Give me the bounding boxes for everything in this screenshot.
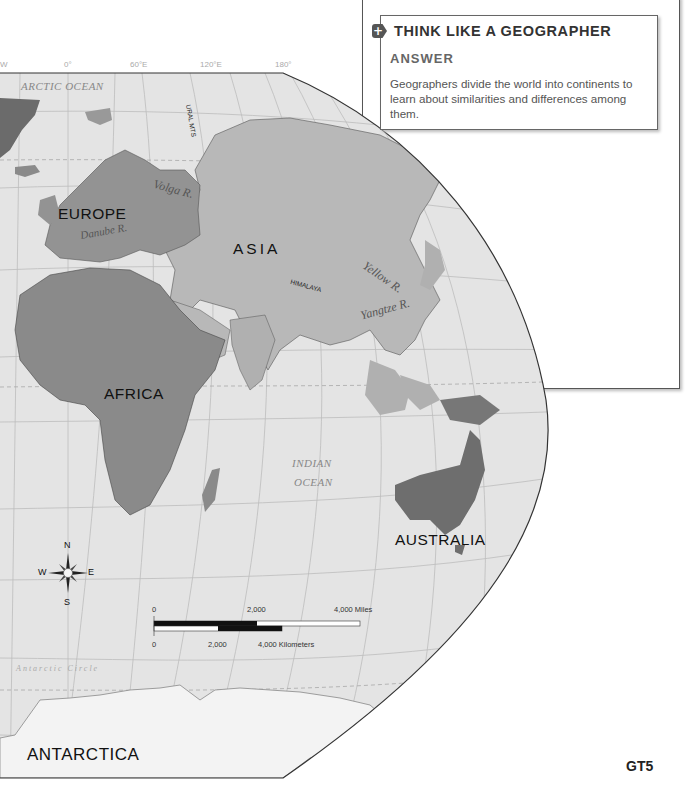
asia-label: ASIA bbox=[233, 240, 280, 258]
arctic-ocean-label: ARCTIC OCEAN bbox=[21, 80, 104, 92]
box-title: THINK LIKE A GEOGRAPHER bbox=[394, 23, 611, 39]
longitude-label-60e: 60°E bbox=[130, 60, 147, 69]
compass-n: N bbox=[64, 540, 71, 550]
longitude-label-0: 0° bbox=[64, 60, 72, 69]
antarctica-label: ANTARCTICA bbox=[27, 745, 139, 765]
scale-km-0: 0 bbox=[152, 640, 156, 649]
box-body-text: Geographers divide the world into contin… bbox=[390, 76, 645, 121]
scale-miles-4000: 4,000 Miles bbox=[334, 605, 372, 614]
scale-km-2000: 2,000 bbox=[208, 640, 227, 649]
africa-label: AFRICA bbox=[104, 385, 164, 403]
compass-w: W bbox=[38, 567, 47, 577]
scale-miles-0: 0 bbox=[152, 605, 156, 614]
box-subtitle: ANSWER bbox=[390, 51, 454, 66]
australia-label: AUSTRALIA bbox=[395, 531, 486, 549]
longitude-label-180: 180° bbox=[275, 60, 292, 69]
compass-s: S bbox=[64, 597, 70, 607]
compass-e: E bbox=[88, 567, 94, 577]
antarctic-circle-label: Antarctic Circle bbox=[16, 664, 99, 673]
page-number: GT5 bbox=[626, 758, 653, 774]
longitude-label-w: W bbox=[0, 60, 8, 69]
indian-ocean-label-1: INDIAN bbox=[292, 457, 332, 469]
scale-miles-2000: 2,000 bbox=[247, 605, 266, 614]
europe-label: EUROPE bbox=[58, 205, 126, 223]
scale-km-4000: 4,000 Kilometers bbox=[258, 640, 314, 649]
longitude-label-120e: 120°E bbox=[200, 60, 222, 69]
indian-ocean-label-2: OCEAN bbox=[294, 476, 333, 488]
